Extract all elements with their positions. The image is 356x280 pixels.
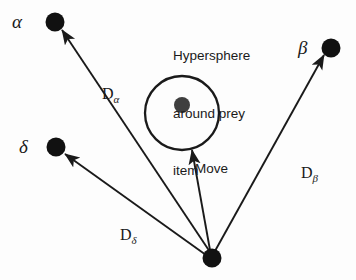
distance-delta-base: D	[120, 226, 132, 243]
node-label-alpha: α	[12, 10, 22, 34]
distance-label-delta: Dδ	[104, 205, 137, 268]
distance-beta-base: D	[301, 164, 313, 181]
distance-beta-subscript: β	[313, 173, 318, 185]
distance-alpha-subscript: α	[114, 94, 120, 106]
caption-line-2: around prey	[173, 104, 250, 123]
node-predator-origin	[203, 249, 222, 268]
node-delta	[47, 138, 66, 157]
distance-alpha-base: D	[102, 85, 114, 102]
hypersphere-caption: Hypersphere around prey item	[173, 8, 250, 219]
move-label: Move	[195, 160, 228, 177]
diagram-canvas: Hypersphere around prey item α β δ Dα Dδ…	[0, 0, 356, 280]
node-alpha	[46, 13, 65, 32]
node-label-delta: δ	[19, 135, 28, 159]
distance-label-alpha: Dα	[86, 64, 119, 127]
caption-line-1: Hypersphere	[173, 46, 250, 65]
node-label-beta: β	[298, 36, 307, 60]
distance-delta-subscript: δ	[132, 235, 137, 247]
node-beta	[322, 39, 341, 58]
distance-label-beta: Dβ	[285, 143, 318, 206]
